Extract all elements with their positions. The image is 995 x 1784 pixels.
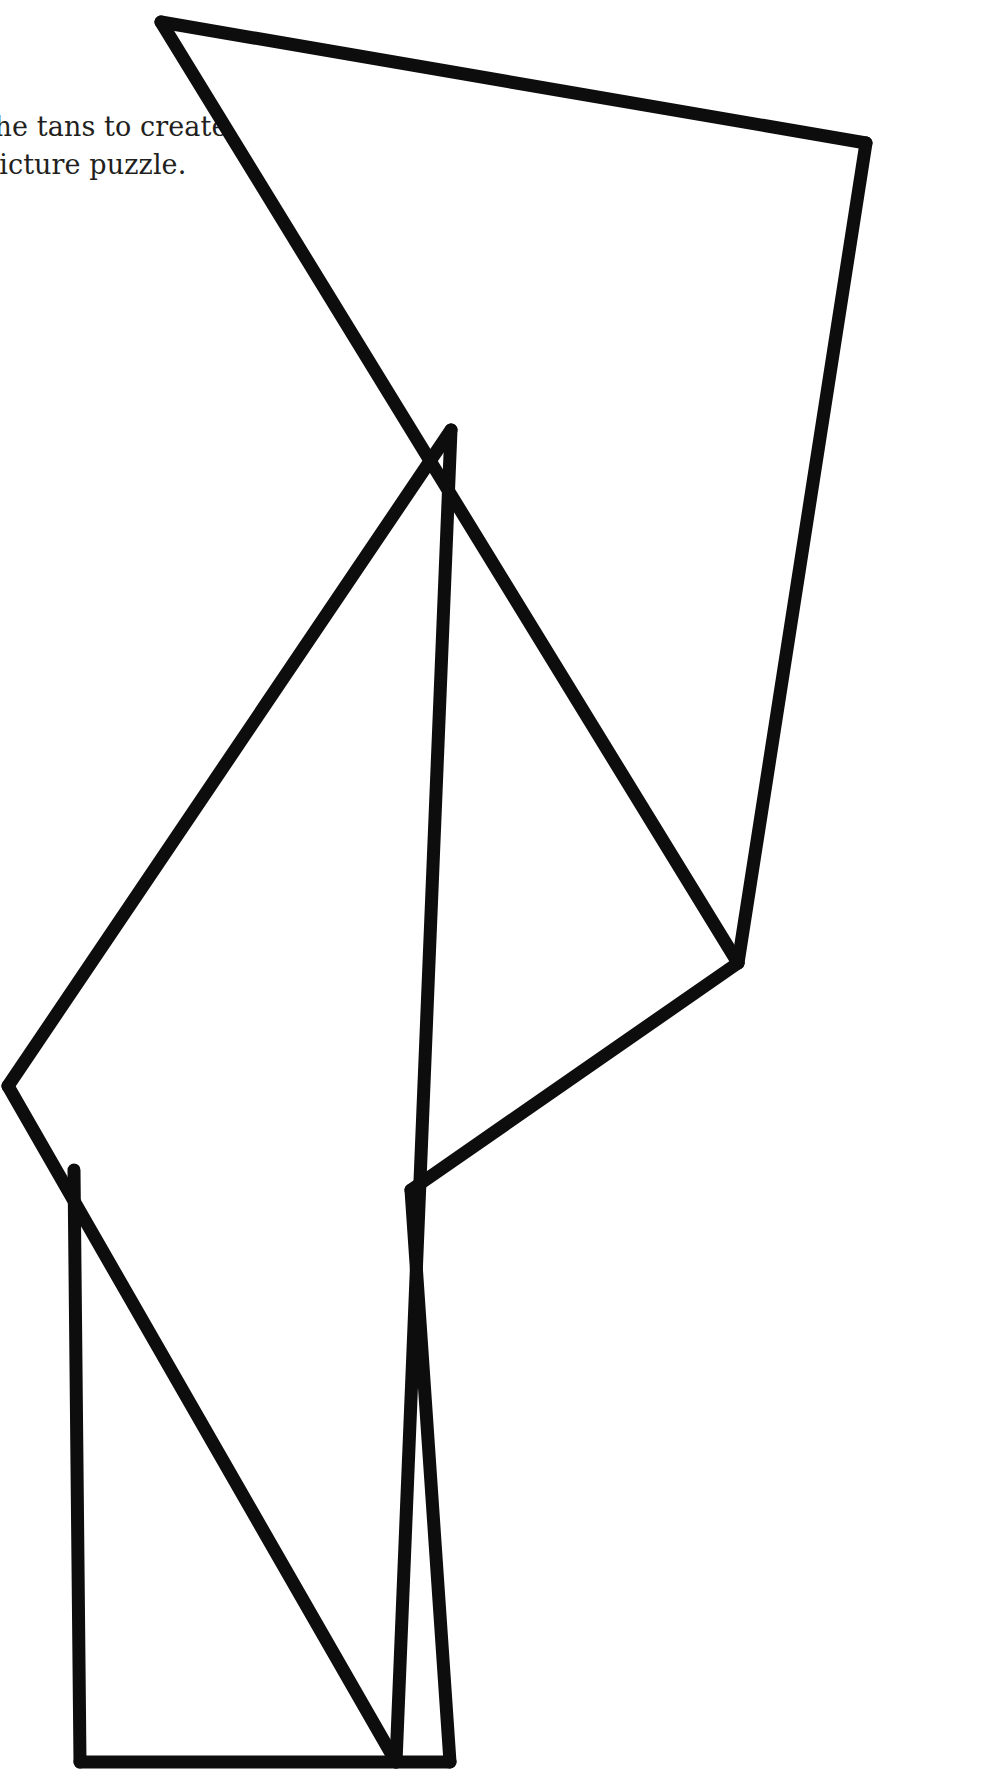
figure-segment-lower-right-diagonal xyxy=(411,963,738,1190)
figure-segment-rect-left-side xyxy=(74,1170,80,1762)
figure-stroke-group xyxy=(8,22,866,1762)
worksheet-page: Use the tans to create this picture puzz… xyxy=(0,0,995,1784)
figure-segment-top-left-edge xyxy=(161,22,866,143)
figure-segment-right-long-edge xyxy=(738,143,866,963)
figure-segment-left-lower-diagonal xyxy=(8,1086,396,1762)
figure-segment-left-upper-diagonal xyxy=(8,430,451,1086)
tangram-outline-figure xyxy=(0,0,995,1784)
figure-segment-notch-to-corner xyxy=(411,1190,450,1762)
